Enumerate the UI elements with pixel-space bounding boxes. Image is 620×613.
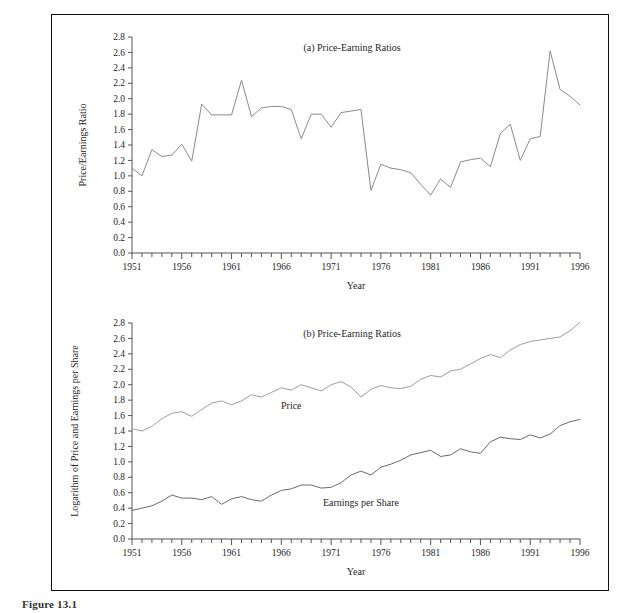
svg-text:1966: 1966	[272, 548, 291, 558]
svg-text:1.6: 1.6	[113, 411, 125, 421]
svg-text:2.4: 2.4	[113, 349, 125, 359]
svg-text:1996: 1996	[571, 548, 590, 558]
svg-text:1981: 1981	[421, 548, 440, 558]
svg-text:1961: 1961	[222, 548, 241, 558]
svg-text:1956: 1956	[172, 262, 191, 272]
svg-text:2.0: 2.0	[113, 94, 125, 104]
panel-b-plot: 0.00.20.40.60.81.01.21.41.61.82.02.22.42…	[52, 303, 608, 590]
svg-text:0.8: 0.8	[113, 472, 125, 482]
svg-text:1951: 1951	[123, 548, 142, 558]
svg-text:0.8: 0.8	[113, 186, 125, 196]
panel-a: 0.00.20.40.60.81.01.21.41.61.82.02.22.42…	[52, 15, 608, 303]
svg-text:1986: 1986	[471, 262, 490, 272]
svg-text:2.0: 2.0	[113, 380, 125, 390]
figure-caption: Figure 13.1	[22, 598, 582, 610]
svg-text:2.2: 2.2	[113, 364, 125, 374]
svg-text:1.2: 1.2	[113, 442, 125, 452]
svg-text:(b) Price-Earning Ratios: (b) Price-Earning Ratios	[303, 328, 401, 340]
svg-text:1986: 1986	[471, 548, 490, 558]
svg-text:1961: 1961	[222, 262, 241, 272]
figure-frame: 0.00.20.40.60.81.01.21.41.61.82.02.22.42…	[51, 14, 609, 591]
svg-text:2.2: 2.2	[113, 78, 125, 88]
svg-text:2.8: 2.8	[113, 318, 125, 328]
svg-text:1981: 1981	[421, 262, 440, 272]
svg-text:Earnings per Share: Earnings per Share	[323, 497, 400, 508]
svg-text:0.0: 0.0	[113, 534, 125, 544]
svg-text:1.2: 1.2	[113, 156, 125, 166]
svg-text:0.2: 0.2	[113, 233, 125, 243]
svg-text:1951: 1951	[123, 262, 142, 272]
svg-text:1976: 1976	[371, 548, 390, 558]
caption-label: Figure 13.1	[22, 598, 77, 610]
svg-text:Price: Price	[281, 400, 302, 411]
svg-text:1991: 1991	[521, 262, 540, 272]
svg-text:Year: Year	[347, 566, 366, 577]
svg-text:2.6: 2.6	[113, 48, 125, 58]
svg-text:1.4: 1.4	[113, 140, 125, 150]
svg-text:0.6: 0.6	[113, 488, 125, 498]
svg-text:0.0: 0.0	[113, 248, 125, 258]
svg-text:0.4: 0.4	[113, 503, 125, 513]
svg-text:2.6: 2.6	[113, 334, 125, 344]
svg-text:1.8: 1.8	[113, 109, 125, 119]
svg-text:1956: 1956	[172, 548, 191, 558]
svg-text:1.6: 1.6	[113, 125, 125, 135]
svg-text:1991: 1991	[521, 548, 540, 558]
panel-a-plot: 0.00.20.40.60.81.01.21.41.61.82.02.22.42…	[52, 15, 608, 303]
svg-text:0.2: 0.2	[113, 519, 125, 529]
panel-b: 0.00.20.40.60.81.01.21.41.61.82.02.22.42…	[52, 303, 608, 590]
svg-text:2.4: 2.4	[113, 63, 125, 73]
svg-text:0.6: 0.6	[113, 202, 125, 212]
svg-text:1971: 1971	[322, 262, 341, 272]
svg-text:1966: 1966	[272, 262, 291, 272]
svg-text:1.8: 1.8	[113, 395, 125, 405]
svg-text:Price/Earnings Ratio: Price/Earnings Ratio	[77, 103, 88, 186]
svg-text:Logarithm of Price and Earning: Logarithm of Price and Earnings per Shar…	[69, 345, 80, 517]
svg-text:1971: 1971	[322, 548, 341, 558]
svg-text:1.4: 1.4	[113, 426, 125, 436]
svg-text:0.4: 0.4	[113, 217, 125, 227]
svg-text:1976: 1976	[371, 262, 390, 272]
svg-text:1.0: 1.0	[113, 171, 125, 181]
svg-text:1.0: 1.0	[113, 457, 125, 467]
svg-text:2.8: 2.8	[113, 32, 125, 42]
svg-text:1996: 1996	[571, 262, 590, 272]
svg-text:(a) Price-Earning Ratios: (a) Price-Earning Ratios	[303, 42, 400, 54]
svg-text:Year: Year	[347, 280, 366, 291]
